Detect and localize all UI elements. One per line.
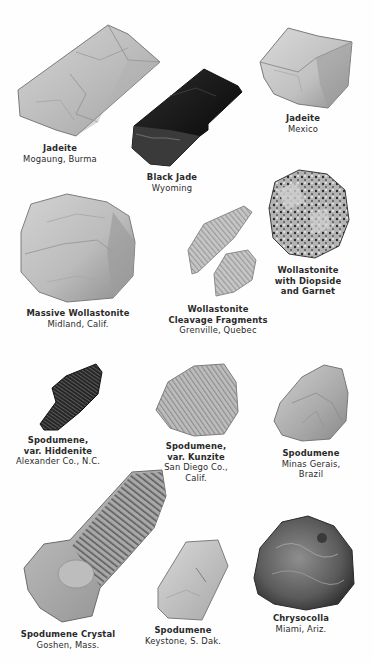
- jadeite-mexico-label: Jadeite Mexico: [286, 113, 320, 134]
- spodumene-hiddenite-illustration: [38, 362, 104, 432]
- chrysocolla-illustration: [252, 514, 356, 610]
- wollastonite-cleavage-label: Wollastonite Cleavage Fragments Grenvill…: [168, 304, 267, 336]
- massive-wollastonite-illustration: [17, 192, 139, 304]
- spodumene-crystal-label: Spodumene Crystal Goshen, Mass.: [21, 629, 116, 650]
- mineral-plate: Jadeite Mogaung, Burma Black Jade Wyomin…: [0, 0, 374, 663]
- wollastonite-diopside-garnet-illustration: [265, 168, 351, 260]
- spodumene-kunzite-label: Spodumene, var. Kunzite San Diego Co., C…: [164, 441, 228, 483]
- spodumene-brazil-label: Spodumene Minas Gerais, Brazil: [282, 448, 341, 480]
- spodumene-dakota-label: Spodumene Keystone, S. Dak.: [145, 625, 221, 646]
- spodumene-kunzite-illustration: [154, 362, 240, 438]
- chrysocolla-label: Chrysocolla Miami, Ariz.: [273, 613, 329, 634]
- jadeite-mexico-illustration: [258, 26, 354, 110]
- spodumene-hiddenite-label: Spodumene, var. Hiddenite Alexander Co.,…: [16, 435, 100, 467]
- massive-wollastonite-label: Massive Wollastonite Midland, Calif.: [26, 308, 129, 329]
- wollastonite-cleavage-illustration: [184, 204, 260, 300]
- spodumene-dakota-illustration: [156, 538, 230, 622]
- jadeite-burma-label: Jadeite Mogaung, Burma: [23, 143, 97, 164]
- spodumene-brazil-illustration: [272, 363, 350, 443]
- black-jade-illustration: [130, 66, 246, 168]
- spodumene-crystal-illustration: [22, 468, 168, 624]
- wollastonite-diopside-garnet-label: Wollastonite with Diopside and Garnet: [275, 265, 342, 297]
- black-jade-label: Black Jade Wyoming: [147, 172, 197, 193]
